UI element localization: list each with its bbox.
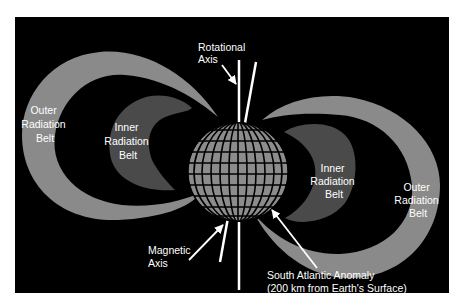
radiation-belt-diagram: Rotational Axis Outer Radiation Belt Inn… — [0, 0, 463, 307]
diagram-root: Rotational Axis Outer Radiation Belt Inn… — [0, 0, 463, 307]
